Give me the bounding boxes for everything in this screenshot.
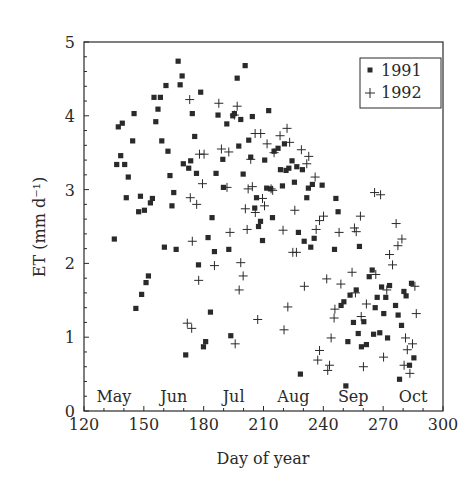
square-marker	[243, 63, 248, 68]
square-marker	[122, 162, 127, 167]
y-tick-label: 1	[65, 328, 75, 347]
square-marker	[133, 306, 138, 311]
plus-marker	[370, 188, 379, 197]
plus-marker	[356, 212, 365, 221]
plus-marker	[243, 225, 252, 234]
square-marker	[163, 83, 168, 88]
square-marker	[379, 284, 384, 289]
plus-marker	[403, 345, 412, 354]
x-tick-label: 150	[129, 415, 160, 434]
month-label: Aug	[276, 387, 309, 406]
square-marker	[176, 59, 181, 64]
square-marker	[260, 238, 265, 243]
square-marker	[252, 205, 257, 210]
plus-marker	[362, 299, 371, 308]
square-marker	[312, 236, 317, 241]
plus-marker	[348, 268, 357, 277]
square-marker	[262, 157, 267, 162]
square-marker	[114, 162, 119, 167]
x-tick-label: 270	[368, 415, 399, 434]
square-marker	[205, 235, 210, 240]
square-marker	[270, 215, 275, 220]
square-marker	[155, 107, 160, 112]
plus-marker	[244, 184, 253, 193]
plus-marker	[315, 346, 324, 355]
plus-marker	[198, 179, 207, 188]
square-marker	[310, 182, 315, 187]
square-marker	[286, 166, 291, 171]
square-marker	[224, 121, 229, 126]
square-marker	[351, 320, 356, 325]
square-marker	[126, 174, 131, 179]
square-marker	[213, 171, 218, 176]
square-marker	[178, 82, 183, 87]
plus-marker	[405, 369, 414, 378]
plus-marker	[283, 124, 292, 133]
square-marker	[289, 158, 294, 163]
square-marker	[142, 208, 147, 213]
square-marker	[158, 95, 163, 100]
square-marker	[226, 247, 231, 252]
plus-marker	[233, 102, 242, 111]
plus-marker	[263, 139, 272, 148]
square-marker	[404, 293, 409, 298]
square-marker	[162, 245, 167, 250]
square-marker	[387, 283, 392, 288]
legend: 19911992	[360, 58, 441, 108]
plus-marker	[239, 271, 248, 280]
square-marker	[169, 203, 174, 208]
square-marker	[118, 153, 123, 158]
square-marker	[209, 215, 214, 220]
month-annotations: MayJunJulAugSepOct	[96, 387, 427, 406]
plus-marker	[302, 159, 311, 168]
plus-marker	[379, 353, 388, 362]
plus-marker	[352, 227, 361, 236]
square-marker	[196, 262, 201, 267]
square-marker	[292, 180, 297, 185]
plus-marker	[392, 219, 401, 228]
plus-marker	[200, 150, 209, 159]
square-marker	[228, 333, 233, 338]
square-marker	[112, 236, 117, 241]
plus-marker	[280, 325, 289, 334]
square-marker	[203, 339, 208, 344]
square-marker	[266, 108, 271, 113]
square-marker	[370, 267, 375, 272]
x-tick-label: 240	[308, 415, 339, 434]
plus-marker	[235, 285, 244, 294]
square-marker	[401, 289, 406, 294]
plus-marker	[401, 333, 410, 342]
square-marker	[302, 239, 307, 244]
plus-marker	[330, 305, 339, 314]
plus-marker	[214, 99, 223, 108]
plus-marker	[210, 261, 219, 270]
square-marker	[280, 183, 285, 188]
plus-marker	[188, 237, 197, 246]
square-marker	[256, 224, 261, 229]
square-marker	[120, 121, 125, 126]
plus-marker	[350, 223, 359, 232]
square-marker	[201, 344, 206, 349]
square-marker	[151, 95, 156, 100]
plus-marker	[397, 235, 406, 244]
square-marker	[174, 247, 179, 252]
legend-label-1992: 1992	[381, 83, 422, 102]
plus-marker	[335, 228, 344, 237]
square-marker	[393, 303, 398, 308]
month-label: May	[96, 387, 131, 406]
square-marker	[236, 143, 241, 148]
y-tick-label: 4	[65, 107, 75, 126]
square-marker	[150, 196, 155, 201]
square-marker	[364, 342, 369, 347]
plus-marker	[192, 200, 201, 209]
square-marker	[367, 274, 372, 279]
plus-marker	[330, 314, 339, 323]
plus-marker	[408, 339, 417, 348]
y-tick-label: 0	[65, 402, 75, 421]
square-marker	[192, 134, 197, 139]
plus-marker	[256, 129, 265, 138]
plus-marker	[225, 228, 234, 237]
legend-label-1991: 1991	[381, 61, 422, 80]
square-marker	[148, 200, 153, 205]
plus-marker	[223, 183, 232, 192]
